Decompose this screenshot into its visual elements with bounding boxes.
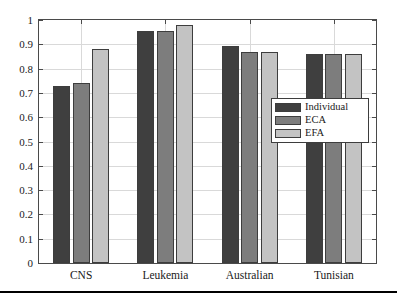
y-axis-tick (39, 93, 43, 94)
bar-leukemia-efa (176, 25, 193, 263)
x-axis-label-australian: Australian (226, 270, 274, 282)
x-axis-tick-top (334, 20, 335, 24)
y-axis-tick (39, 166, 43, 167)
y-axis-tick (39, 44, 43, 45)
y-axis-tick-right (372, 166, 376, 167)
x-axis-tick-top (81, 20, 82, 24)
y-axis-label: 0.4 (19, 160, 33, 171)
y-axis-tick-right (372, 214, 376, 215)
figure-canvas: 00.10.20.30.40.50.60.70.80.91CNSLeukemia… (0, 0, 397, 302)
legend-swatch-efa (275, 129, 301, 138)
chart-legend[interactable]: Individual ECA EFA (271, 98, 369, 143)
y-axis-tick (39, 239, 43, 240)
y-axis-tick (39, 20, 43, 21)
y-axis-tick-right (372, 44, 376, 45)
gridline-horizontal (39, 44, 376, 45)
y-axis-tick-right (372, 20, 376, 21)
x-axis-tick-top (165, 20, 166, 24)
y-axis-tick-right (372, 69, 376, 70)
bar-tunisian-eca (325, 54, 342, 263)
bar-cns-individual (53, 86, 70, 263)
y-axis-label: 0.2 (19, 209, 33, 220)
x-axis-label-leukemia: Leukemia (142, 270, 188, 282)
y-axis-tick-right (372, 190, 376, 191)
bar-australian-eca (241, 52, 258, 263)
legend-item-individual: Individual (275, 101, 365, 113)
y-axis-tick (39, 117, 43, 118)
y-axis-tick (39, 263, 43, 264)
bar-australian-individual (222, 46, 239, 263)
y-axis-label: 0.3 (19, 185, 33, 196)
y-axis-label: 0.8 (19, 63, 33, 74)
bar-leukemia-eca (157, 31, 174, 263)
legend-label-efa: EFA (305, 128, 324, 139)
bar-cns-eca (73, 83, 90, 263)
y-axis-label: 0.1 (19, 233, 33, 244)
legend-label-eca: ECA (305, 115, 326, 126)
y-axis-tick (39, 214, 43, 215)
x-axis-tick-top (250, 20, 251, 24)
bar-leukemia-individual (137, 31, 154, 263)
x-axis-label-tunisian: Tunisian (314, 270, 354, 282)
legend-item-eca: ECA (275, 114, 365, 126)
y-axis-label: 0.5 (19, 136, 33, 147)
y-axis-label: 0.9 (19, 39, 33, 50)
bar-tunisian-efa (345, 54, 362, 263)
y-axis-tick-right (372, 93, 376, 94)
legend-item-efa: EFA (275, 127, 365, 139)
y-axis-tick-right (372, 239, 376, 240)
y-axis-tick (39, 190, 43, 191)
y-axis-tick (39, 142, 43, 143)
y-axis-label: 0.6 (19, 112, 33, 123)
legend-swatch-individual (275, 103, 301, 112)
legend-swatch-eca (275, 116, 301, 125)
legend-label-individual: Individual (305, 102, 348, 113)
y-axis-tick-right (372, 142, 376, 143)
y-axis-label: 1 (28, 15, 34, 26)
y-axis-tick-right (372, 117, 376, 118)
y-axis-label: 0.7 (19, 87, 33, 98)
bottom-divider-rule (0, 291, 397, 293)
bar-cns-efa (92, 49, 109, 263)
y-axis-tick-right (372, 263, 376, 264)
bar-australian-efa (261, 52, 278, 263)
y-axis-tick (39, 69, 43, 70)
bar-tunisian-individual (306, 54, 323, 263)
x-axis-label-cns: CNS (70, 270, 92, 282)
y-axis-label: 0 (28, 258, 34, 269)
